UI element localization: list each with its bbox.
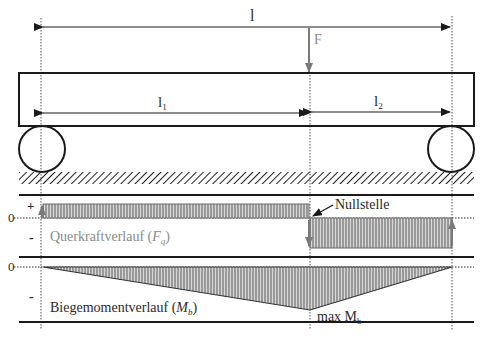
length-2-subscript: 2 (378, 101, 383, 111)
moment-diagram-label: Biegemomentverlauf (Mb) (50, 301, 197, 317)
right-roller-support (428, 126, 474, 172)
zero-crossing-label: Nullstelle (335, 198, 389, 212)
max-moment-subscript: b (357, 316, 362, 326)
shear-zero-label: 0 (8, 211, 15, 224)
shear-label-text: Querkraftverlauf ( (50, 229, 152, 244)
left-roller-support (19, 126, 65, 172)
length-1-label: l1 (158, 95, 167, 112)
max-moment-label: max Mb (317, 310, 362, 326)
total-length-label: l (250, 8, 254, 24)
max-moment-text: max M (317, 309, 357, 324)
moment-symbol: M (176, 300, 188, 315)
shear-negative-region (310, 218, 452, 248)
moment-label-text: Biegemomentverlauf ( (50, 300, 176, 315)
beam (19, 73, 474, 126)
shear-label-end: ) (165, 229, 170, 244)
moment-zero-label: 0 (8, 260, 15, 273)
length-1-subscript: 1 (162, 102, 167, 112)
shear-diagram-label: Querkraftverlauf (Fq) (50, 230, 170, 246)
zero-crossing-pointer (313, 205, 333, 216)
plus-sign: + (27, 199, 34, 212)
force-label: F (314, 33, 322, 47)
moment-minus-sign: - (29, 290, 34, 304)
beam-diagram: l F l1 l2 + 0 - Nullstelle Querkraftverl… (0, 0, 486, 339)
shear-positive-region (43, 204, 309, 218)
diagram-canvas (0, 0, 486, 339)
shear-minus-sign: - (29, 231, 34, 245)
ground-hatch (19, 172, 474, 184)
shear-symbol: F (152, 229, 161, 244)
moment-label-end: ) (193, 300, 198, 315)
length-2-label: l2 (374, 94, 383, 111)
